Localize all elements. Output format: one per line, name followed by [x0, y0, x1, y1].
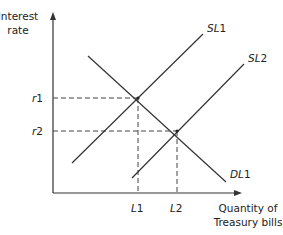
demand-curve-dl1 — [88, 56, 226, 182]
y-tick-r2: r2 — [32, 125, 43, 137]
y-tick-r1: r1 — [32, 92, 43, 104]
supply-demand-diagram: Interest rate r1 r2 L1 L2 SL1 SL2 DL1 Qu… — [0, 0, 283, 235]
equilibrium-point-2 — [175, 129, 178, 132]
label-sl1: SL1 — [207, 22, 226, 34]
x-axis-label-line1: Quantity of — [219, 202, 278, 214]
equilibrium-point-1 — [136, 96, 139, 99]
x-tick-l1: L1 — [131, 202, 144, 214]
y-axis-label-line2: rate — [7, 24, 28, 36]
supply-curve-sl2 — [132, 64, 244, 178]
x-tick-l2: L2 — [170, 202, 183, 214]
x-axis-label-line2: Treasury bills — [213, 216, 283, 228]
label-sl2: SL2 — [248, 52, 267, 64]
label-dl1: DL1 — [230, 168, 251, 180]
y-axis-label-line1: Interest — [0, 10, 38, 22]
